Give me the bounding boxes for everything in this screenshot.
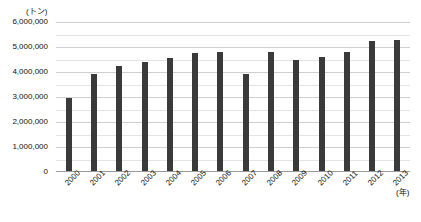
gridline-major (56, 47, 410, 48)
bar-chart: (トン) 6,000,0005,000,0004,000,0003,000,00… (0, 0, 421, 222)
gridline-minor (56, 35, 410, 36)
gridline-minor (56, 85, 410, 86)
y-axis-tick-label: 6,000,000 (0, 18, 48, 26)
bar (243, 74, 249, 172)
gridline-minor (56, 60, 410, 61)
gridline-minor (56, 160, 410, 161)
y-axis-tick-label: 2,000,000 (0, 118, 48, 126)
bar (344, 52, 350, 172)
bar (142, 62, 148, 172)
bar (91, 74, 97, 172)
bar (369, 41, 375, 172)
bar (319, 57, 325, 172)
gridline-major (56, 72, 410, 73)
bar (192, 53, 198, 173)
bar (116, 66, 122, 172)
gridline-major (56, 147, 410, 148)
x-axis-tick-labels: 2000200120022003200420052006200720082009… (56, 175, 410, 220)
bar (167, 58, 173, 172)
gridline-major (56, 97, 410, 98)
y-axis-unit-label: (トン) (26, 7, 47, 17)
plot-area (56, 22, 410, 172)
cropped-header-sliver (104, 0, 314, 7)
y-axis-tick-label: 5,000,000 (0, 43, 48, 51)
bar (217, 52, 223, 172)
bar (293, 60, 299, 173)
gridline-major (56, 22, 410, 23)
bar (268, 52, 274, 172)
bar (394, 40, 400, 172)
gridline-minor (56, 110, 410, 111)
y-axis-tick-label: 3,000,000 (0, 93, 48, 101)
gridline-minor (56, 135, 410, 136)
y-axis-tick-label: 0 (0, 168, 48, 176)
gridline-major (56, 122, 410, 123)
bar (66, 98, 72, 172)
y-axis-tick-label: 1,000,000 (0, 143, 48, 151)
y-axis-tick-label: 4,000,000 (0, 68, 48, 76)
x-axis-unit-label: (年) (396, 188, 409, 197)
y-axis-tick-labels: 6,000,0005,000,0004,000,0003,000,0002,00… (0, 22, 52, 172)
